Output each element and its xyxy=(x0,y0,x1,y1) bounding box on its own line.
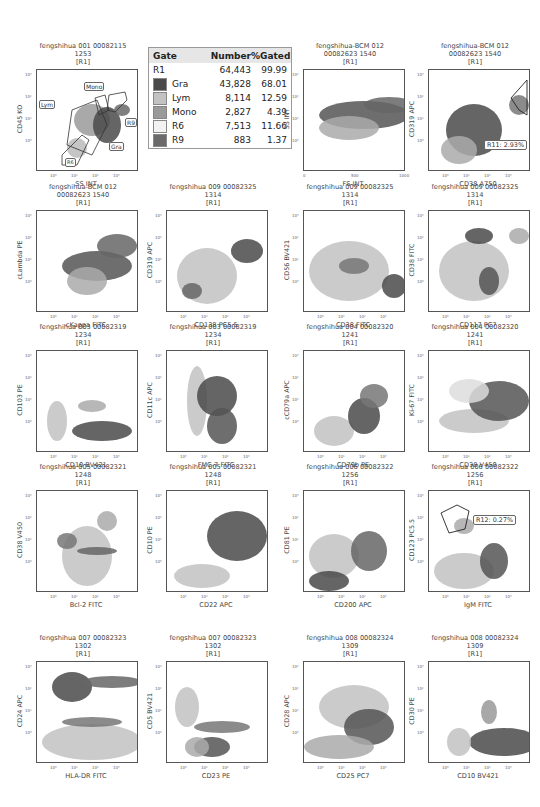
y-tick-label: 10⁰ xyxy=(155,279,162,284)
x-tick-label: 500 xyxy=(351,173,359,178)
y-tick-label: 10⁰ xyxy=(25,138,32,143)
x-tick-label: 10³ xyxy=(505,454,512,459)
x-tick-label: 10² xyxy=(222,314,229,319)
panel-title-line3: [R1] xyxy=(410,58,540,66)
panel-title-line3: [R1] xyxy=(285,339,415,347)
panel-title-line2: 00082623 1540 xyxy=(410,50,540,58)
x-tick-label: 10³ xyxy=(113,765,120,770)
panel-title-line2: 1309 xyxy=(410,642,540,650)
x-tick-label: 10⁰ xyxy=(317,454,324,459)
table-row: R9 883 1.37 xyxy=(149,133,291,147)
gate-label-lym: Lym xyxy=(39,100,55,109)
panel-title-line3: [R1] xyxy=(18,339,148,347)
plot-area xyxy=(428,210,530,312)
y-tick-label: 10² xyxy=(25,686,32,691)
x-tick-label: 0 xyxy=(303,173,306,178)
table-header: Gate Number %Gated xyxy=(149,48,291,63)
x-tick-label: 10² xyxy=(484,765,491,770)
scatter-panel: fengshihua 004 00082320 1241 [R1] 10³10²… xyxy=(285,323,415,463)
x-tick-label: 10² xyxy=(484,454,491,459)
x-tick-label: 10² xyxy=(484,314,491,319)
panel-title: fengshihua 007 00082323 1302 [R1] xyxy=(18,634,148,659)
panel-title-line2: 1253 xyxy=(18,50,148,58)
y-tick-label: 10³ xyxy=(417,72,424,77)
panel-title-line3: [R1] xyxy=(410,199,540,207)
plot-area: R11: 2.93% xyxy=(428,69,530,171)
gate-pct: 4.39 xyxy=(251,107,287,117)
x-tick-label: 10⁰ xyxy=(317,594,324,599)
scatter-points xyxy=(429,491,529,591)
y-tick-label: 10⁰ xyxy=(417,419,424,424)
y-tick-label: 10² xyxy=(25,235,32,240)
y-tick-label: 10¹ xyxy=(25,257,32,262)
scatter-panel: fengshihua 008 00082324 1309 [R1] 10³10²… xyxy=(285,634,415,774)
x-tick-label: 10¹ xyxy=(463,314,470,319)
y-tick-label: 10³ xyxy=(25,72,32,77)
panel-title-line1: fengshihua 008 00082324 xyxy=(410,634,540,642)
y-tick-label: 10⁰ xyxy=(155,559,162,564)
panel-title-line3: [R1] xyxy=(148,479,278,487)
x-axis-label: CD25 PC7 xyxy=(303,772,403,780)
scatter-panel: fengshihua 006 00082322 1256 [R1] R12: 0… xyxy=(410,463,540,603)
y-tick-label: 10⁰ xyxy=(155,419,162,424)
panel-title-line3: [R1] xyxy=(410,650,540,658)
y-axis-label: CD38 V450 xyxy=(16,510,24,570)
plot-area xyxy=(36,661,138,763)
y-axis-label: cLambda PE xyxy=(16,230,24,290)
gate-pct: 1.37 xyxy=(251,135,287,145)
plot-area xyxy=(428,350,530,452)
x-tick-label: 10² xyxy=(92,765,99,770)
panel-title: fengshihua 006 00082322 1256 [R1] xyxy=(410,463,540,488)
plot-area xyxy=(36,350,138,452)
x-axis-label: CD200 APC xyxy=(303,601,403,609)
gate-count: 7,513 xyxy=(205,121,251,131)
panel-title-line3: [R1] xyxy=(18,479,148,487)
gate-pct: 68.01 xyxy=(251,79,287,89)
panel-title-line1: fengshihua 006 00082322 xyxy=(285,463,415,471)
panel-title-line1: fengshihua-BCM 012 xyxy=(410,42,540,50)
x-tick-label: 10² xyxy=(359,765,366,770)
y-tick-label: 10¹ xyxy=(155,397,162,402)
panel-title-line1: fengshihua 009 00082325 xyxy=(285,183,415,191)
gate-label-r6: R6 xyxy=(65,158,76,167)
y-tick-label: 10³ xyxy=(292,493,299,498)
gate-name: Lym xyxy=(172,93,190,103)
plot-area xyxy=(303,661,405,763)
panel-title: fengshihua 001 00082115 1253 [R1] xyxy=(18,42,148,67)
y-tick-label: 10³ xyxy=(417,353,424,358)
y-axis-label: CD11c APC xyxy=(146,370,154,430)
y-tick-label: 10³ xyxy=(417,664,424,669)
x-tick-label: 10⁰ xyxy=(50,765,57,770)
scatter-points xyxy=(167,351,267,451)
x-tick-label: 10¹ xyxy=(201,454,208,459)
panel-title-line2: 1256 xyxy=(285,471,415,479)
x-tick-label: 10² xyxy=(359,314,366,319)
plot-area: Lym Mono R9 Gra R6 xyxy=(36,69,138,171)
gate-name: Mono xyxy=(172,107,196,117)
y-tick-label: 10² xyxy=(417,94,424,99)
y-tick-label: 10² xyxy=(155,686,162,691)
y-tick-label: 10² xyxy=(25,94,32,99)
panel-title-line2: 1314 xyxy=(285,191,415,199)
y-tick-label: 10¹ xyxy=(292,537,299,542)
x-tick-label: 10³ xyxy=(113,314,120,319)
panel-title-line1: fengshihua 005 00082321 xyxy=(18,463,148,471)
y-tick-label: 10⁰ xyxy=(292,730,299,735)
y-tick-label: 10¹ xyxy=(417,116,424,121)
y-tick-label: 10² xyxy=(417,515,424,520)
x-tick-label: 10² xyxy=(484,173,491,178)
y-tick-label: 10⁰ xyxy=(292,559,299,564)
gate-pct: 11.66 xyxy=(251,121,287,131)
gate-count: 2,827 xyxy=(205,107,251,117)
y-tick-label: 10³ xyxy=(155,213,162,218)
panel-title-line3: [R1] xyxy=(285,479,415,487)
scatter-panel: fengshihua 009 00082325 1314 [R1] 10³10²… xyxy=(410,183,540,323)
y-tick-label: 10⁰ xyxy=(155,730,162,735)
x-tick-label: 10³ xyxy=(505,173,512,178)
panel-title-line1: fengshihua 009 00082325 xyxy=(410,183,540,191)
x-tick-label: 10² xyxy=(484,594,491,599)
x-tick-label: 10³ xyxy=(380,594,387,599)
table-row: R6 7,513 11.66 xyxy=(149,119,291,133)
color-swatch xyxy=(153,134,167,147)
y-tick-label: 10³ xyxy=(292,353,299,358)
